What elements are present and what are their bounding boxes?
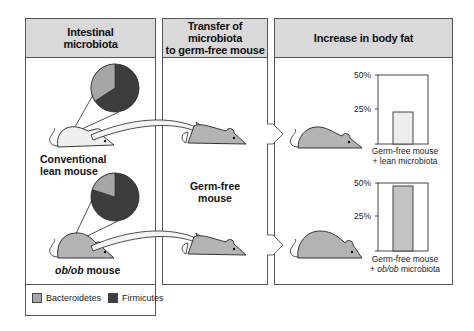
lean-label-line2: lean mouse	[40, 165, 98, 177]
chart1-tick-25: 25%	[354, 104, 371, 114]
bar-chart-lean	[375, 75, 428, 144]
pie-chart-lean	[91, 64, 139, 112]
germfree-label-line1: Germ-free	[190, 180, 240, 192]
notch-arrow-top	[267, 124, 283, 144]
result-mouse-lean-icon	[290, 127, 362, 148]
legend: Bacteroidetes Firmicutes	[32, 293, 164, 303]
chart2-tick-25: 25%	[354, 211, 371, 221]
legend-swatch-bacteroidetes	[32, 293, 42, 303]
germfree-label-line2: mouse	[198, 192, 232, 204]
chart1-label-line2: + lean microbiota	[373, 156, 438, 166]
chart2-tick-50: 50%	[354, 178, 371, 188]
bar-chart-obob	[375, 183, 428, 251]
chart2-category-label: Germ-free mouse + ob/ob microbiota	[368, 254, 442, 274]
obob-label-italic: ob/ob	[55, 264, 84, 276]
chart2-label-italic: ob/ob	[377, 264, 398, 274]
pie-chart-obob	[91, 173, 139, 221]
lean-label-line1: Conventional	[40, 153, 107, 165]
lean-mouse-label: Conventional lean mouse	[40, 153, 120, 177]
obob-mouse-label: ob/ob mouse	[55, 264, 135, 276]
germfree-mouse-label: Germ-free mouse	[175, 180, 255, 204]
legend-label-firmicutes: Firmicutes	[122, 293, 164, 303]
chart1-tick-50: 50%	[354, 70, 371, 80]
legend-label-bacteroidetes: Bacteroidetes	[46, 293, 101, 303]
legend-swatch-firmicutes	[108, 293, 118, 303]
chart1-label-line1: Germ-free mouse	[372, 146, 439, 156]
chart1-category-label: Germ-free mouse + lean microbiota	[370, 146, 440, 166]
notch-arrow-bottom	[267, 235, 283, 255]
obob-label-rest: mouse	[84, 264, 121, 276]
chart2-label-line1: Germ-free mouse	[372, 254, 439, 264]
result-mouse-obese-icon	[290, 231, 362, 258]
chart2-label-suffix: microbiota	[399, 264, 441, 274]
